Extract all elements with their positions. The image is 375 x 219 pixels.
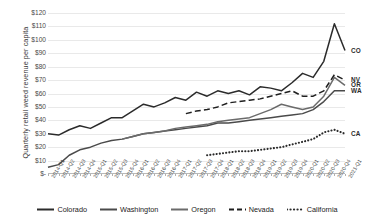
y-tick-label: $40 — [2, 116, 46, 123]
y-tick-label: $20 — [2, 143, 46, 150]
legend-item-nevada[interactable]: Nevada — [229, 205, 274, 214]
series-line-co — [48, 24, 345, 135]
series-line-or — [122, 77, 345, 139]
legend-label: Oregon — [191, 205, 215, 214]
legend-label: Nevada — [249, 205, 274, 214]
y-tick-label: $60 — [2, 90, 46, 97]
end-label-ca: CA — [351, 130, 361, 137]
end-label-co: CO — [351, 47, 361, 54]
y-tick-label: $120 — [2, 9, 46, 16]
legend-label: Washington — [120, 205, 158, 214]
y-tick-label: $70 — [2, 76, 46, 83]
legend-item-oregon[interactable]: Oregon — [171, 205, 215, 214]
legend-swatch-icon — [100, 206, 117, 213]
series-line-ca — [207, 130, 345, 156]
x-axis-tick-labels: 2014-Q12014-Q22014-Q32014-Q42015-Q12015-… — [48, 174, 345, 200]
y-axis-tick-labels: $120$110$100$90$80$70$60$50$40$30$20$10$… — [0, 13, 46, 174]
legend-swatch-icon — [171, 206, 188, 213]
legend-label: California — [307, 205, 338, 214]
legend-label: Colorado — [57, 205, 87, 214]
legend-item-colorado[interactable]: Colorado — [37, 205, 87, 214]
y-tick-label: $100 — [2, 36, 46, 43]
y-tick-label: $30 — [2, 130, 46, 137]
legend-item-washington[interactable]: Washington — [100, 205, 158, 214]
legend-swatch-icon — [37, 206, 54, 213]
y-tick-label: $80 — [2, 63, 46, 70]
legend-swatch-icon — [287, 206, 304, 213]
y-tick-label: $- — [2, 170, 46, 177]
chart-root: Quarterly retail weed revenue per capita… — [0, 0, 375, 219]
chart-legend: ColoradoWashingtonOregonNevadaCalifornia — [0, 200, 375, 218]
series-line-wa — [48, 91, 345, 167]
y-tick-label: $90 — [2, 49, 46, 56]
plot-area — [48, 13, 345, 174]
y-tick-label: $110 — [2, 22, 46, 29]
end-label-nv: NV — [351, 76, 360, 83]
legend-swatch-icon — [229, 206, 246, 213]
y-tick-label: $10 — [2, 157, 46, 164]
legend-item-california[interactable]: California — [287, 205, 338, 214]
y-tick-label: $50 — [2, 103, 46, 110]
series-lines — [48, 13, 345, 174]
